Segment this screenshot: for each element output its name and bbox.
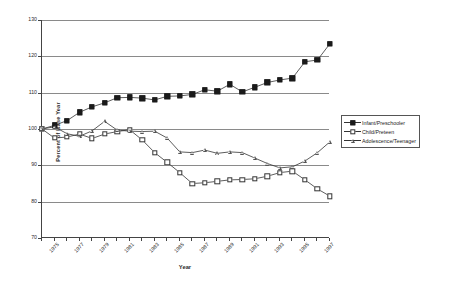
legend-marker-icon [344,127,361,136]
data-point-marker [315,151,319,155]
legend-item[interactable]: Adolescence/Teenager [344,136,416,145]
y-tick-label: 100 [28,126,37,131]
data-point-marker [302,177,307,182]
data-point-marker [140,130,144,134]
x-tick-mark [166,238,167,241]
x-tick-label: 1995 [299,242,311,254]
legend-item-label: Infant/Preschooler [361,120,405,126]
y-tick-label: 130 [28,17,37,22]
data-point-marker [202,180,207,185]
x-tick-mark [266,238,267,241]
data-point-marker [252,176,257,181]
x-tick-mark [316,238,317,241]
x-tick-mark [79,238,80,241]
data-point-marker [290,165,294,169]
data-point-marker [253,156,257,160]
series-line [42,44,330,129]
data-point-marker [252,85,257,90]
series-line [42,121,330,168]
x-tick-mark [66,238,67,241]
data-point-marker [115,128,119,132]
legend-item[interactable]: Infant/Preschooler [344,118,416,127]
data-point-marker [52,135,57,140]
x-tick-label: 1979 [98,242,110,254]
x-tick-mark [41,238,42,241]
data-point-marker [103,119,107,123]
data-point-marker [277,170,282,175]
data-point-marker [315,57,320,62]
data-point-marker [178,150,182,154]
data-point-marker [228,150,232,154]
data-point-marker [240,89,245,94]
x-tick-mark [241,238,242,241]
x-tick-mark [91,238,92,241]
data-point-marker [227,177,232,182]
data-point-marker [165,136,169,140]
data-point-marker [290,75,295,80]
chart-container: Percent of Base Year 708090100110120130 … [0,0,450,283]
data-point-marker [190,151,194,155]
data-point-marker [53,125,57,129]
data-point-marker [190,181,195,186]
data-point-marker [139,137,144,142]
data-point-marker [190,92,195,97]
y-tick-label: 90 [31,163,37,168]
data-point-marker [64,118,69,123]
data-point-marker [202,87,207,92]
data-point-marker [102,131,107,136]
data-point-marker [165,160,170,165]
data-point-marker [89,136,94,141]
data-point-marker [40,127,44,131]
data-point-marker [89,104,94,109]
data-point-marker [265,174,270,179]
x-tick-label: 1985 [174,242,186,254]
data-point-marker [165,94,170,99]
data-point-marker [177,93,182,98]
x-tick-mark [154,238,155,241]
data-point-marker [152,97,157,102]
data-point-marker [102,100,107,105]
x-tick-mark [116,238,117,241]
x-tick-label: 1977 [73,242,85,254]
data-point-marker [265,80,270,85]
data-point-marker [177,170,182,175]
y-tick-label: 110 [29,90,37,95]
data-point-marker [65,132,69,136]
data-point-marker [215,151,219,155]
data-point-marker [77,110,82,115]
x-tick-mark [216,238,217,241]
x-tick-label: 1991 [249,242,261,254]
data-point-marker [240,151,244,155]
x-tick-mark [141,238,142,241]
data-point-marker [78,134,82,138]
series-lines [42,20,330,238]
data-point-marker [328,140,332,144]
data-point-marker [227,82,232,87]
data-point-marker [327,41,332,46]
legend-item-label: Adolescence/Teenager [361,138,416,144]
x-tick-mark [129,238,130,241]
chart-legend: Infant/PreschoolerChild/PreteenAdolescen… [341,115,420,148]
x-tick-label: 1993 [274,242,286,254]
data-point-marker [327,194,332,199]
data-point-marker [315,186,320,191]
data-point-marker [153,129,157,133]
legend-marker-icon [344,136,361,145]
x-tick-mark [191,238,192,241]
data-point-marker [278,166,282,170]
data-point-marker [302,59,307,64]
x-tick-label: 1975 [48,242,60,254]
x-axis-label: Year [41,264,329,270]
x-tick-mark [54,238,55,241]
data-point-marker [128,129,132,133]
data-point-marker [127,95,132,100]
data-point-marker [277,77,282,82]
x-tick-label: 1981 [124,242,136,254]
y-tick-label: 70 [31,235,37,240]
plot-area [41,20,329,238]
data-point-marker [265,162,269,166]
x-tick-label: 1989 [224,242,236,254]
legend-item[interactable]: Child/Preteen [344,127,416,136]
data-point-marker [215,89,220,94]
x-tick-label: 1987 [199,242,211,254]
